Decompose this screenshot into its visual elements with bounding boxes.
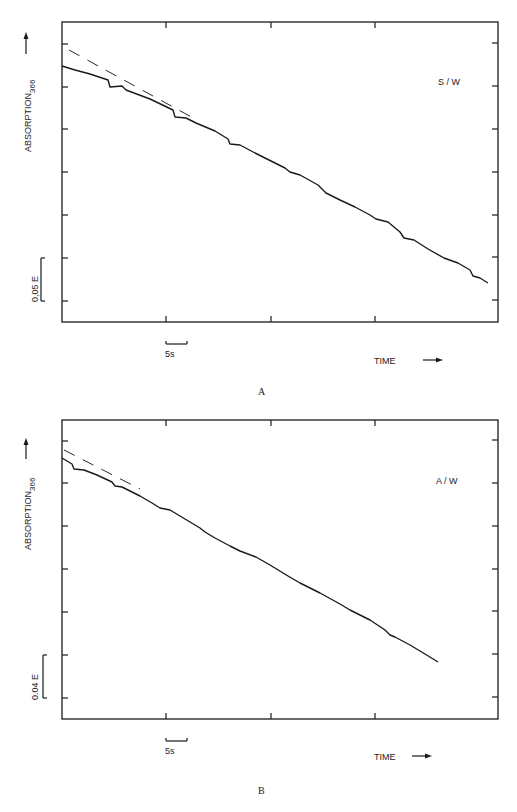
figure: ABSORPTION366 xyxy=(0,0,517,812)
y-scale-label: 0.04 E xyxy=(30,674,40,700)
x-arrow-icon xyxy=(412,754,432,759)
y-ticks-left xyxy=(62,441,68,698)
x-ticks xyxy=(166,420,375,719)
panel-b: ABSORPTION366 xyxy=(23,420,498,796)
panel-a: ABSORPTION366 xyxy=(23,22,498,397)
y-axis-label: ABSORPTION366 xyxy=(23,477,37,550)
condition-label: S / W xyxy=(438,77,461,87)
y-scale-bar xyxy=(43,655,47,698)
y-ticks-right xyxy=(492,440,498,697)
x-ticks xyxy=(166,22,375,322)
condition-label: A / W xyxy=(436,476,458,486)
x-scale-bar xyxy=(166,341,187,344)
x-arrow-icon xyxy=(423,358,443,363)
y-ticks-left xyxy=(62,44,68,301)
y-axis-label: ABSORPTION366 xyxy=(23,79,37,152)
measured-trace xyxy=(62,66,488,283)
y-scale-bar xyxy=(41,258,45,301)
y-arrow-icon xyxy=(24,438,29,459)
panel-caption: A xyxy=(258,386,266,397)
x-axis-label: TIME xyxy=(374,752,396,762)
measured-trace xyxy=(62,458,438,662)
x-scale-label: 5s xyxy=(165,746,175,756)
y-ticks-right xyxy=(492,43,498,300)
x-axis-label: TIME xyxy=(374,356,396,366)
plot-frame xyxy=(62,420,498,719)
panel-caption: B xyxy=(258,785,265,796)
plot-frame xyxy=(62,22,498,322)
y-scale-label: 0,05 E xyxy=(30,276,40,302)
x-scale-bar xyxy=(166,738,187,741)
dashed-extrapolation-line xyxy=(69,50,195,119)
x-scale-label: 5s xyxy=(165,349,175,359)
y-arrow-icon xyxy=(24,32,29,54)
